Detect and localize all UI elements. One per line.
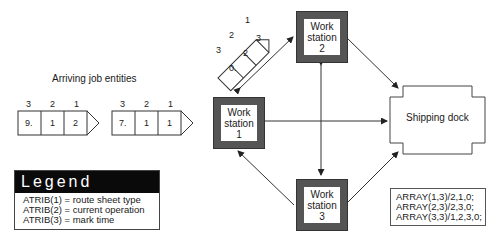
attr-value: 1: [167, 118, 172, 128]
legend-title: Legend: [15, 171, 159, 193]
array-definitions: ARRAY(1,3)/2,1,0; ARRAY(2,3)/2,3,0; ARRA…: [390, 188, 486, 226]
workstation-label: station: [307, 32, 336, 43]
workstation-number: 2: [307, 43, 336, 54]
attr-value: 0.: [229, 63, 237, 73]
attr-index: 2: [50, 99, 55, 109]
attr-index: 1: [168, 99, 173, 109]
attr-value: 3: [256, 33, 261, 43]
legend-item: ATRIB(3) = mark time: [23, 215, 151, 225]
attr-value: 1: [50, 118, 55, 128]
attr-index: 3: [26, 99, 31, 109]
arriving-title: Arriving job entities: [52, 73, 136, 84]
workstation-number: 3: [307, 211, 336, 222]
shipping-dock: Shipping dock: [406, 112, 469, 123]
workstation-label: station: [224, 118, 253, 129]
array-line: ARRAY(3,3)/1,2,3,0;: [396, 212, 480, 222]
attr-index: 3: [216, 45, 221, 55]
attr-index: 1: [74, 99, 79, 109]
attr-value: 9.: [25, 118, 33, 128]
workstation-3[interactable]: Work station 3: [297, 180, 347, 230]
attr-index: 2: [144, 99, 149, 109]
attr-value: 1: [144, 118, 149, 128]
workstation-1[interactable]: Work station 1: [214, 98, 264, 148]
attr-value: 2: [73, 118, 78, 128]
attr-index: 3: [120, 99, 125, 109]
workstation-label: Work: [307, 21, 336, 32]
workstation-label: station: [307, 200, 336, 211]
attr-value: 2: [243, 48, 248, 58]
legend: Legend ATRIB(1) = route sheet type ATRIB…: [14, 170, 160, 230]
attr-index: 2: [229, 30, 234, 40]
workstation-label: Work: [224, 107, 253, 118]
workstation-2[interactable]: Work station 2: [297, 12, 347, 62]
attr-value: 7.: [119, 118, 127, 128]
workstation-label: Work: [307, 189, 336, 200]
workstation-number: 1: [224, 129, 253, 140]
attr-index: 1: [245, 15, 250, 25]
